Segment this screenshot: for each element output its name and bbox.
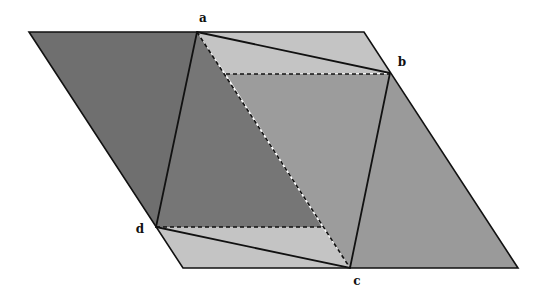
vertex-label-d: d xyxy=(136,222,145,236)
vertex-label-a: a xyxy=(199,11,207,25)
vertex-label-c: c xyxy=(353,274,360,288)
geometry-diagram: a b c d xyxy=(0,0,548,301)
vertex-label-b: b xyxy=(398,55,406,69)
